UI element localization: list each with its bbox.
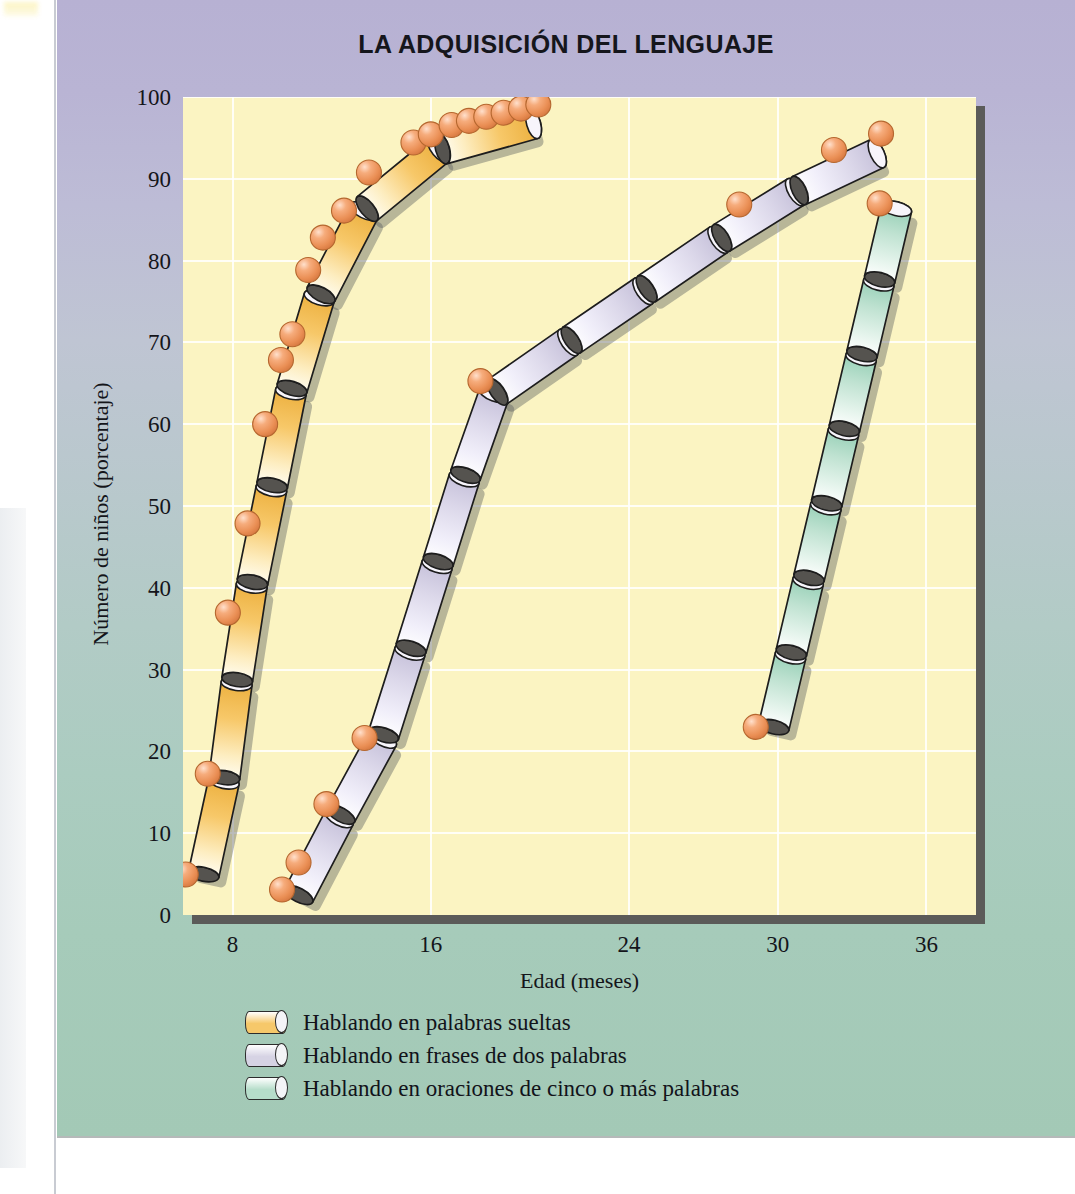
legend: Hablando en palabras sueltasHablando en … xyxy=(245,1006,1045,1105)
data-point-marker xyxy=(280,322,305,347)
data-point-marker xyxy=(286,850,311,875)
x-axis-tick-labels: 816243036 xyxy=(183,932,976,968)
y-axis-tick-label: 0 xyxy=(101,904,171,927)
data-point-marker xyxy=(235,511,260,536)
x-axis-tick-label: 16 xyxy=(419,932,442,958)
data-point-marker xyxy=(821,137,846,162)
legend-item: Hablando en frases de dos palabras xyxy=(245,1039,1045,1072)
data-point-marker xyxy=(869,121,894,146)
data-point-marker xyxy=(268,347,293,372)
data-point-marker xyxy=(314,792,339,817)
legend-item-label: Hablando en palabras sueltas xyxy=(303,1010,571,1036)
data-point-marker xyxy=(253,412,278,437)
data-point-marker xyxy=(331,198,356,223)
series-curves xyxy=(183,97,976,915)
data-point-marker xyxy=(310,225,335,250)
plot-area xyxy=(183,97,976,915)
page-title: LA ADQUISICIÓN DEL LENGUAJE xyxy=(57,30,1075,59)
legend-item: Hablando en oraciones de cinco o más pal… xyxy=(245,1072,1045,1105)
data-point-marker xyxy=(296,258,321,283)
data-point-marker xyxy=(195,761,220,786)
x-axis-tick-label: 8 xyxy=(227,932,239,958)
y-axis-tick-label: 100 xyxy=(101,86,171,109)
legend-swatch-cylinder-icon xyxy=(245,1011,287,1034)
legend-item-label: Hablando en frases de dos palabras xyxy=(303,1043,627,1069)
x-axis-tick-label: 24 xyxy=(618,932,641,958)
y-axis-tick-label: 90 xyxy=(101,168,171,191)
data-point-marker xyxy=(270,877,295,902)
legend-item: Hablando en palabras sueltas xyxy=(245,1006,1045,1039)
page-edge-strip xyxy=(0,508,26,1168)
data-point-marker xyxy=(743,714,768,739)
legend-swatch-cylinder-icon xyxy=(245,1077,287,1100)
legend-swatch-cylinder-icon xyxy=(245,1044,287,1067)
x-axis-tick-label: 30 xyxy=(766,932,789,958)
data-point-marker xyxy=(727,192,752,217)
page-left-margin xyxy=(0,0,56,1194)
data-point-marker xyxy=(526,97,551,117)
y-axis-title: Número de niños (porcentaje) xyxy=(88,204,114,824)
page-edge-smudge xyxy=(4,2,38,16)
page-fold-line xyxy=(54,0,56,1194)
chart-figure: LA ADQUISICIÓN DEL LENGUAJE 100908070605… xyxy=(57,0,1075,1136)
plot-inner xyxy=(183,97,976,915)
data-point-marker xyxy=(356,160,381,185)
y-axis-tick-label: 10 xyxy=(101,822,171,845)
x-axis-title: Edad (meses) xyxy=(183,968,976,994)
figure-root: LA ADQUISICIÓN DEL LENGUAJE 100908070605… xyxy=(0,0,1075,1194)
x-axis-tick-label: 36 xyxy=(915,932,938,958)
data-point-marker xyxy=(352,725,377,750)
data-point-marker xyxy=(215,600,240,625)
data-point-marker xyxy=(468,369,493,394)
data-point-marker xyxy=(867,191,892,216)
legend-item-label: Hablando en oraciones de cinco o más pal… xyxy=(303,1076,739,1102)
